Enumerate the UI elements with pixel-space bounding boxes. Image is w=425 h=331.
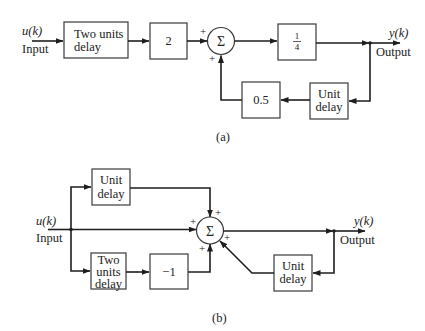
diagram-a: u(k) Input Two units delay 2 Σ + + 1 <box>22 22 411 144</box>
block-text: Unit <box>318 87 341 101</box>
input-signal-label-b: u(k) <box>36 214 56 228</box>
sigma-symbol: Σ <box>217 34 225 49</box>
plus-sign: + <box>209 52 215 64</box>
unit-delay-feedback-block-b: Unit delay <box>274 255 312 291</box>
plus-sign: + <box>190 215 196 227</box>
summing-junction-a: Σ + + <box>200 25 235 64</box>
output-signal-label-b: y(k) <box>352 214 373 228</box>
input-signal-label-a: u(k) <box>22 24 42 38</box>
diagram-b: u(k) Input Unit delay Two units delay −1 <box>36 169 375 325</box>
block-text: Unit <box>282 259 305 273</box>
output-label-b: Output <box>340 233 375 247</box>
plus-sign: + <box>200 25 206 37</box>
gain-2-block-a: 2 <box>150 23 187 59</box>
fraction-denominator: 4 <box>295 42 300 52</box>
plus-sign: + <box>224 231 230 243</box>
block-text: −1 <box>162 265 175 279</box>
arrow <box>130 188 210 217</box>
block-text: delay <box>74 40 102 54</box>
feedback-line <box>221 56 242 101</box>
two-units-delay-block-a: Two units delay <box>64 22 128 58</box>
caption-a: (a) <box>216 130 230 144</box>
gain-quarter-block-a: 1 4 <box>278 24 316 60</box>
output-label-a: Output <box>376 45 411 59</box>
branch-line <box>71 230 90 272</box>
input-label-b: Input <box>36 231 63 245</box>
block-text: 2 <box>165 34 171 48</box>
unit-delay-block-a: Unit delay <box>310 83 348 119</box>
block-text: delay <box>279 272 307 286</box>
block-text: delay <box>315 100 343 114</box>
block-text: delay <box>97 187 125 201</box>
unit-delay-top-block-b: Unit delay <box>92 169 130 205</box>
caption-b: (b) <box>212 311 227 325</box>
block-diagrams: u(k) Input Two units delay 2 Σ + + 1 <box>0 0 425 331</box>
block-text: Two units <box>74 27 124 41</box>
gain-neg1-block-b: −1 <box>150 254 188 289</box>
plus-sign: + <box>215 206 221 218</box>
block-text: delay <box>95 277 123 291</box>
output-signal-label-a: y(k) <box>387 26 408 40</box>
feedback-line <box>349 43 370 101</box>
two-units-delay-block-b: Two units delay <box>91 253 126 291</box>
sigma-symbol: Σ <box>206 224 214 239</box>
feedback-line <box>313 231 334 273</box>
branch-line <box>71 187 91 230</box>
input-label-a: Input <box>22 42 49 56</box>
fraction-numerator: 1 <box>295 31 300 41</box>
feedback-line <box>220 241 274 273</box>
block-text: Unit <box>100 173 123 187</box>
plus-sign: + <box>199 242 205 254</box>
block-text: 0.5 <box>253 93 269 107</box>
gain-half-block-a: 0.5 <box>242 82 280 118</box>
